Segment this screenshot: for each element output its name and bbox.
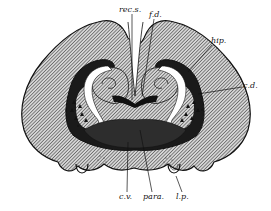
leader-l-p — [176, 176, 182, 192]
label-c-v: c.v. — [119, 192, 132, 201]
label-c-d: c.d. — [243, 81, 258, 90]
label-rec-s: rec.s. — [119, 5, 141, 14]
brain-section-diagram: rec.s. f.d. hip. c.d. c.v. para. l.p. — [0, 0, 271, 211]
label-l-p: l.p. — [176, 192, 189, 201]
label-f-d: f.d. — [148, 10, 162, 19]
label-para: para. — [143, 192, 164, 201]
label-hip: hip. — [211, 36, 226, 45]
